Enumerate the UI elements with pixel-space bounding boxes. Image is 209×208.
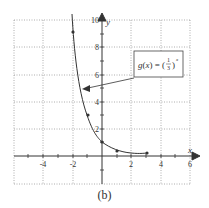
figure-caption: (b) [0, 188, 209, 203]
function-curve [72, 14, 148, 153]
svg-text:1: 1 [167, 57, 170, 63]
y-tick-label: 4 [95, 98, 99, 107]
x-tick-label: -4 [40, 160, 47, 169]
y-tick-label: 8 [95, 43, 99, 52]
svg-text:): ) [172, 60, 175, 70]
y-axis-label: y [105, 17, 110, 27]
y-tick-label: 10 [91, 16, 99, 25]
x-axis-label: x [187, 145, 192, 155]
y-tick-label: 6 [95, 71, 99, 80]
chart: -4 -2 2 4 6 2 4 6 8 10 y x g(x) = ( 1 3 … [0, 0, 209, 208]
svg-text:3: 3 [167, 65, 170, 71]
data-points [71, 30, 148, 154]
y-tick-label: 2 [95, 125, 99, 134]
axes [14, 13, 200, 184]
x-tick-label: 6 [188, 160, 192, 169]
x-tick-label: 2 [129, 160, 133, 169]
x-tick-label: 4 [159, 160, 163, 169]
function-label: g(x) = ( [138, 60, 165, 70]
x-tick-label: -2 [70, 160, 77, 169]
